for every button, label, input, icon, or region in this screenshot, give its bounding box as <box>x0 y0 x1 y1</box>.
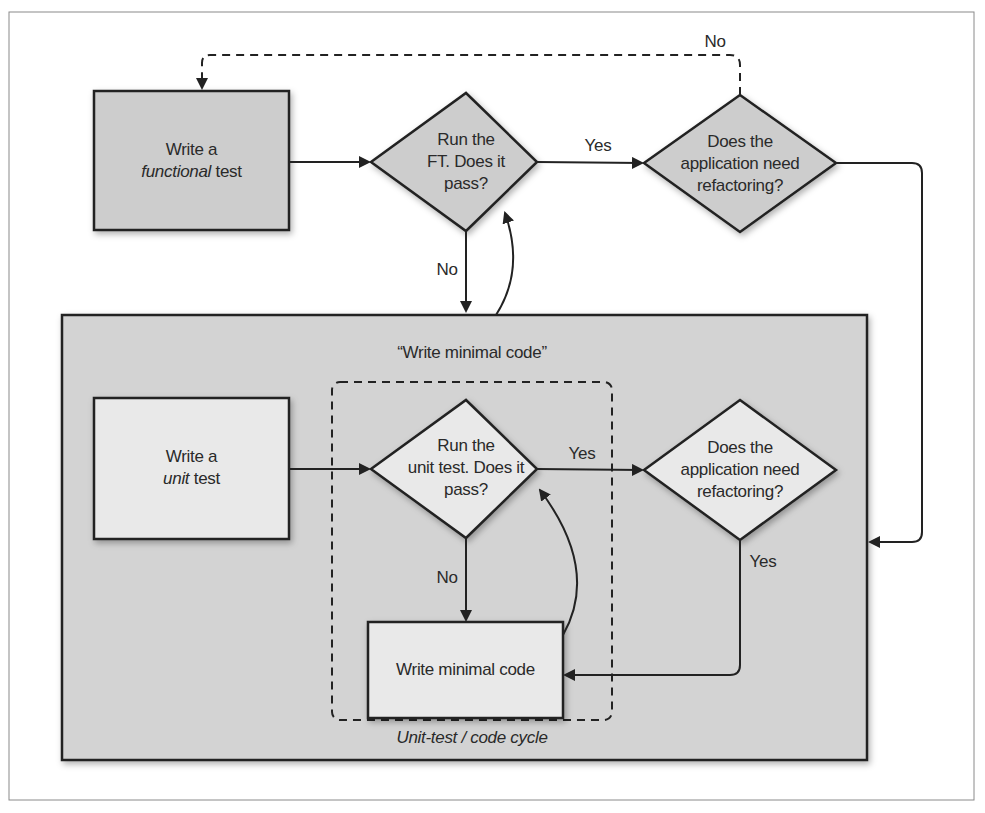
refactor-inner-label: Does the application need refactoring? <box>655 437 825 503</box>
edge-unit-yes <box>537 469 642 470</box>
node-line: Write a <box>94 139 289 161</box>
node-line: functional test <box>94 161 289 183</box>
node-line: Does the <box>655 437 825 459</box>
node-line: FT. Does it <box>391 151 541 173</box>
write-functional-test-label: Write a functional test <box>94 139 289 183</box>
edge-label-ft-no: No <box>432 259 462 281</box>
edge-label-ft-yes: Yes <box>578 135 618 157</box>
edge-label-refactor-top-no: No <box>700 31 730 53</box>
outer-box-title: “Write minimal code” <box>332 342 612 364</box>
edge-label-unit-yes: Yes <box>562 443 602 465</box>
italic-word: functional <box>141 162 211 181</box>
node-line: Write a <box>94 446 289 468</box>
run-ft-label: Run the FT. Does it pass? <box>391 129 541 195</box>
node-line: application need <box>655 459 825 481</box>
run-unit-test-label: Run the unit test. Does it pass? <box>381 435 551 501</box>
node-line: application need <box>655 153 825 175</box>
node-line: refactoring? <box>655 175 825 197</box>
refactor-top-label: Does the application need refactoring? <box>655 131 825 197</box>
node-line: Run the <box>391 129 541 151</box>
node-line: unit test. Does it <box>381 457 551 479</box>
edge-label-refactor-inner-yes: Yes <box>745 551 781 573</box>
inner-cycle-caption: Unit-test / code cycle <box>332 727 612 749</box>
edge-ft-yes <box>537 162 642 163</box>
diagram-canvas <box>0 0 985 813</box>
node-line: Does the <box>655 131 825 153</box>
write-unit-test-label: Write a unit test <box>94 446 289 490</box>
node-line: pass? <box>391 173 541 195</box>
node-line: pass? <box>381 479 551 501</box>
italic-word: unit <box>163 469 189 488</box>
node-line: unit test <box>94 468 289 490</box>
node-line: refactoring? <box>655 481 825 503</box>
write-minimal-code-label: Write minimal code <box>368 659 563 681</box>
node-text: test <box>189 469 220 488</box>
node-text: test <box>211 162 242 181</box>
edge-label-unit-no: No <box>432 567 462 589</box>
node-line: Run the <box>381 435 551 457</box>
